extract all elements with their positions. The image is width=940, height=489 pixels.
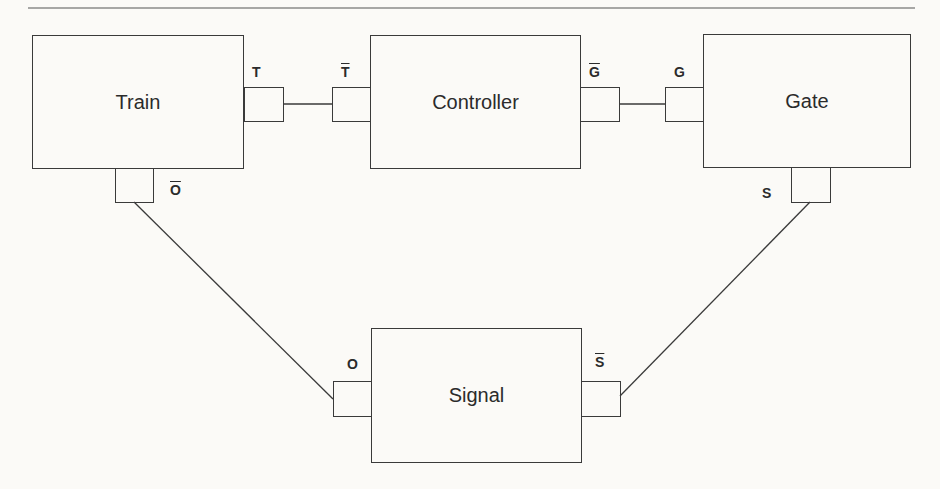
controller-label: Controller: [432, 91, 519, 114]
controller-component: Controller: [370, 35, 581, 169]
connector-gate-signal: [620, 202, 810, 396]
gate-label: Gate: [785, 90, 828, 113]
train-t-port: [244, 87, 284, 122]
gate-component: Gate: [703, 34, 911, 168]
controller-t-bar-label: T: [341, 65, 350, 79]
signal-s-port: [581, 381, 621, 417]
train-t-label: T: [252, 65, 261, 79]
train-o-port: [115, 168, 154, 203]
connector-train-signal: [134, 202, 333, 399]
controller-g-bar-label: G: [589, 65, 600, 79]
signal-component: Signal: [371, 328, 582, 463]
train-label: Train: [116, 91, 161, 114]
signal-o-label: O: [347, 357, 358, 371]
controller-t-port: [332, 87, 371, 122]
train-component: Train: [32, 35, 244, 169]
signal-s-bar-label: S: [595, 355, 604, 369]
gate-g-label: G: [674, 65, 685, 79]
train-o-bar-label: O: [170, 183, 181, 197]
gate-s-port: [791, 167, 831, 203]
gate-g-port: [665, 87, 704, 122]
signal-o-port: [333, 381, 372, 417]
signal-label: Signal: [449, 384, 505, 407]
diagram-canvas: Train T O Controller T G Gate G S Signal…: [0, 0, 940, 489]
controller-g-port: [580, 87, 620, 122]
gate-s-label: S: [762, 186, 771, 200]
